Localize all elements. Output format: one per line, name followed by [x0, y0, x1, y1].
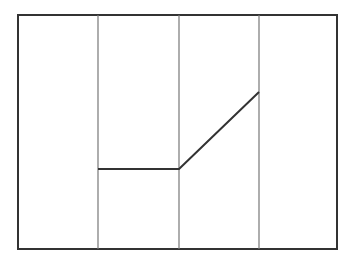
vertical-dividers: [98, 15, 259, 249]
outer-frame: [18, 15, 337, 249]
step-diagram: [0, 0, 341, 259]
